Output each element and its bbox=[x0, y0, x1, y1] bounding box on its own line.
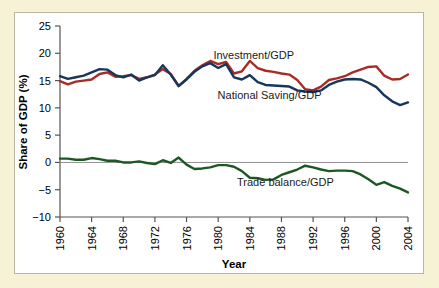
x-tick-label: 1988 bbox=[275, 226, 287, 250]
y-tick-label: 25 bbox=[39, 20, 51, 32]
y-axis-ticks: −10−50510152025 bbox=[32, 20, 60, 223]
x-tick-label: 1960 bbox=[54, 226, 66, 250]
series-layer bbox=[60, 61, 408, 193]
x-tick-label: 1976 bbox=[181, 226, 193, 250]
x-tick-label: 1964 bbox=[86, 226, 98, 250]
y-tick-label: 0 bbox=[45, 156, 51, 168]
y-tick-label: 15 bbox=[39, 75, 51, 87]
y-tick-label: 5 bbox=[45, 129, 51, 141]
series-annotation-national-saving-gdp: National Saving/GDP bbox=[218, 89, 322, 101]
y-tick-label: −5 bbox=[38, 184, 51, 196]
y-tick-label: −10 bbox=[32, 211, 51, 223]
x-tick-label: 1972 bbox=[149, 226, 161, 250]
y-axis-title: Share of GDP (%) bbox=[17, 74, 29, 169]
x-axis-ticks: 1960196419681972197619801984198819921996… bbox=[54, 217, 414, 250]
series-annotation-trade-balance-gdp: Trade balance/GDP bbox=[237, 176, 334, 188]
y-tick-label: 20 bbox=[39, 47, 51, 59]
x-tick-label: 1980 bbox=[212, 226, 224, 250]
economics-line-chart: −10−50510152025 196019641968197219761980… bbox=[14, 12, 424, 274]
x-tick-label: 1968 bbox=[117, 226, 129, 250]
y-tick-label: 10 bbox=[39, 102, 51, 114]
x-tick-label: 1984 bbox=[244, 226, 256, 250]
x-tick-label: 1992 bbox=[307, 226, 319, 250]
x-axis-title: Year bbox=[222, 258, 247, 270]
x-tick-label: 2000 bbox=[370, 226, 382, 250]
x-tick-label: 2004 bbox=[402, 226, 414, 250]
series-annotation-investment-gdp: Investment/GDP bbox=[213, 49, 294, 61]
x-tick-label: 1996 bbox=[339, 226, 351, 250]
figure-background: −10−50510152025 196019641968197219761980… bbox=[0, 0, 439, 288]
